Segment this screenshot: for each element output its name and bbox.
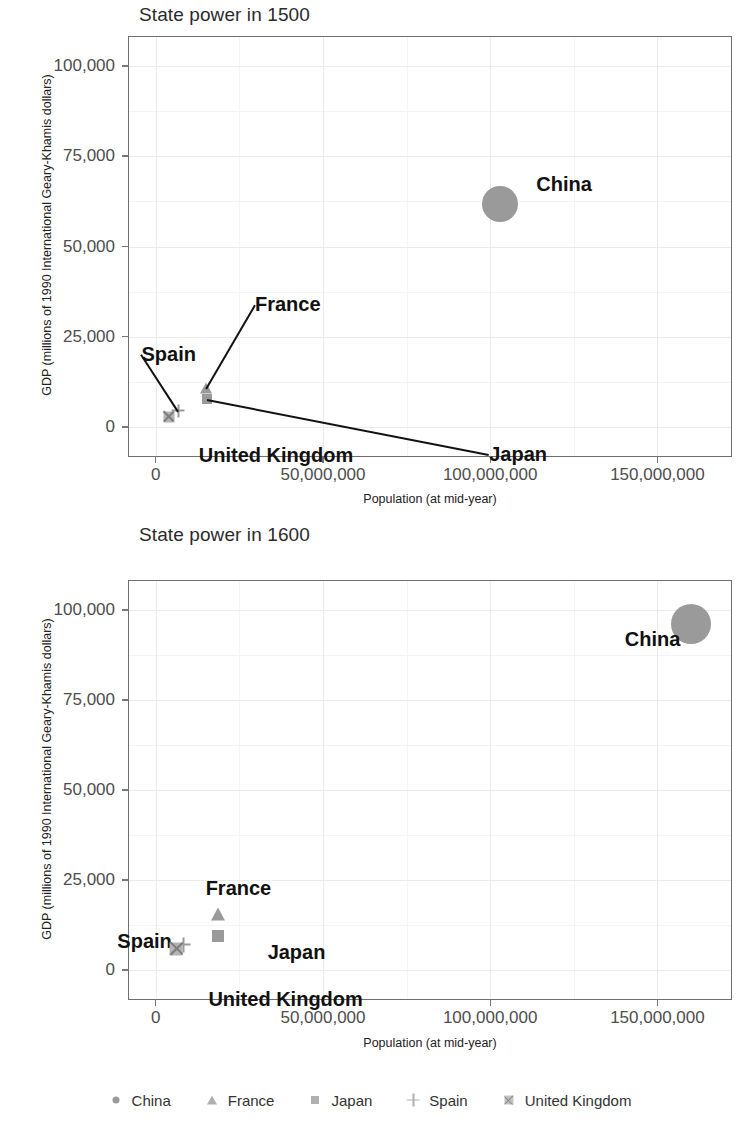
y-tick-label: 0 <box>106 960 115 980</box>
legend: ChinaFranceJapanSpainUnited Kingdom <box>0 1082 740 1118</box>
y-axis-title: GDP (millions of 1990 International Gear… <box>40 20 54 450</box>
legend-item-spain[interactable]: Spain <box>406 1092 467 1109</box>
leader-line-france <box>205 304 256 389</box>
square-icon <box>308 1093 322 1107</box>
gridline-major-vertical <box>323 581 324 999</box>
gridline-major-horizontal <box>129 610 731 611</box>
point-label-france: France <box>206 878 272 898</box>
data-point-japan <box>212 930 224 942</box>
y-tick-label: 100,000 <box>54 600 115 620</box>
gridline-minor-horizontal <box>129 382 731 383</box>
point-label-japan: Japan <box>268 942 326 962</box>
y-tick-label: 25,000 <box>63 327 115 347</box>
gridline-major-horizontal <box>129 156 731 157</box>
y-tick-label: 75,000 <box>63 146 115 166</box>
point-label-china: China <box>536 174 592 194</box>
x-tick-label: 100,000,000 <box>443 465 538 485</box>
x-tick-mark <box>490 999 491 1006</box>
gridline-minor-horizontal <box>129 292 731 293</box>
gridline-minor-horizontal <box>129 925 731 926</box>
legend-label: Spain <box>429 1092 467 1109</box>
gridline-major-horizontal <box>129 427 731 428</box>
gridline-major-horizontal <box>129 66 731 67</box>
legend-item-united-kingdom[interactable]: United Kingdom <box>502 1092 632 1109</box>
data-point-united-kingdom <box>170 942 183 955</box>
y-tick-mark <box>122 426 129 427</box>
point-label-united-kingdom: United Kingdom <box>199 445 353 465</box>
crossed-square-icon <box>502 1093 516 1107</box>
gridline-major-vertical <box>657 37 658 456</box>
x-tick-mark <box>155 456 156 463</box>
gridline-minor-horizontal <box>129 201 731 202</box>
point-label-spain: Spain <box>141 344 195 364</box>
x-tick-label: 50,000,000 <box>280 1008 365 1028</box>
y-tick-label: 100,000 <box>54 56 115 76</box>
point-label-spain: Spain <box>117 931 171 951</box>
gridline-major-vertical <box>156 37 157 456</box>
chart-panel-1500: State power in 1500 GDP (millions of 199… <box>0 0 740 520</box>
y-tick-mark <box>122 609 129 610</box>
y-tick-label: 75,000 <box>63 690 115 710</box>
y-tick-mark <box>122 65 129 66</box>
legend-label: Japan <box>331 1092 372 1109</box>
legend-label: France <box>228 1092 275 1109</box>
point-label-united-kingdom: United Kingdom <box>208 989 362 1009</box>
x-tick-label: 100,000,000 <box>443 1008 538 1028</box>
x-axis-title: Population (at mid-year) <box>128 1036 732 1050</box>
point-label-china: China <box>625 629 681 649</box>
x-tick-label: 50,000,000 <box>280 465 365 485</box>
gridline-major-horizontal <box>129 790 731 791</box>
x-tick-label: 0 <box>151 1008 160 1028</box>
y-tick-mark <box>122 336 129 337</box>
legend-item-china[interactable]: China <box>109 1092 171 1109</box>
y-tick-mark <box>122 155 129 156</box>
y-tick-mark <box>122 789 129 790</box>
gridline-major-vertical <box>323 37 324 456</box>
gridline-major-horizontal <box>129 247 731 248</box>
x-axis-title: Population (at mid-year) <box>128 492 732 506</box>
y-tick-label: 50,000 <box>63 780 115 800</box>
data-point-united-kingdom <box>163 411 174 422</box>
legend-label: United Kingdom <box>525 1092 632 1109</box>
gridline-major-vertical <box>490 37 491 456</box>
chart-title: State power in 1500 <box>139 4 310 26</box>
x-tick-label: 0 <box>151 465 160 485</box>
y-tick-mark <box>122 246 129 247</box>
y-tick-mark <box>122 969 129 970</box>
data-point-china <box>482 186 518 222</box>
triangle-icon <box>205 1093 219 1107</box>
data-point-france <box>211 908 225 921</box>
figure-root: State power in 1500 GDP (millions of 199… <box>0 0 740 1127</box>
gridline-minor-horizontal <box>129 655 731 656</box>
plus-icon <box>406 1093 420 1107</box>
point-label-japan: Japan <box>489 444 547 464</box>
chart-panel-1600: State power in 1600 GDP (millions of 199… <box>0 520 740 1075</box>
circle-icon <box>109 1093 123 1107</box>
gridline-minor-horizontal <box>129 835 731 836</box>
plot-area: 025,00050,00075,000100,000050,000,000100… <box>128 36 732 457</box>
legend-item-france[interactable]: France <box>205 1092 275 1109</box>
point-label-france: France <box>255 294 321 314</box>
x-tick-label: 150,000,000 <box>610 465 705 485</box>
x-tick-label: 150,000,000 <box>610 1008 705 1028</box>
gridline-major-horizontal <box>129 700 731 701</box>
x-tick-mark <box>155 999 156 1006</box>
x-tick-mark <box>657 456 658 463</box>
legend-item-japan[interactable]: Japan <box>308 1092 372 1109</box>
x-tick-mark <box>657 999 658 1006</box>
chart-title: State power in 1600 <box>139 524 310 546</box>
y-tick-label: 25,000 <box>63 870 115 890</box>
gridline-minor-horizontal <box>129 111 731 112</box>
y-axis-title: GDP (millions of 1990 International Gear… <box>40 564 54 994</box>
y-tick-mark <box>122 879 129 880</box>
gridline-major-horizontal <box>129 337 731 338</box>
legend-label: China <box>132 1092 171 1109</box>
y-tick-mark <box>122 699 129 700</box>
gridline-major-horizontal <box>129 970 731 971</box>
gridline-major-vertical <box>490 581 491 999</box>
y-tick-label: 0 <box>106 417 115 437</box>
y-tick-label: 50,000 <box>63 237 115 257</box>
gridline-minor-horizontal <box>129 745 731 746</box>
plot-area: 025,00050,00075,000100,000050,000,000100… <box>128 580 732 1000</box>
